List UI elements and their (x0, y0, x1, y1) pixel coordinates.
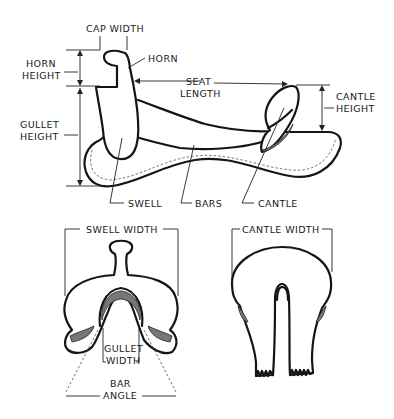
bar-angle-label-2: ANGLE (103, 390, 137, 401)
rear-gullet-inner (277, 287, 288, 300)
horn-label: HORN (148, 53, 178, 64)
horn-height-label-1: HORN (26, 58, 56, 69)
swell-width-label: SWELL WIDTH (86, 224, 158, 235)
gullet-height-label-2: HEIGHT (20, 131, 59, 142)
swell-label: SWELL (128, 198, 162, 209)
gullet-height-label-1: GULLET (20, 119, 59, 130)
cantle-width-label: CANTLE WIDTH (242, 224, 320, 235)
seat-length-label-2: LENGTH (180, 88, 221, 99)
rear-view: CANTLE WIDTH (232, 224, 332, 376)
bar-angle-label-1: BAR (110, 378, 131, 389)
gullet-width-label-1: GULLET (104, 343, 143, 354)
cantle-label: CANTLE (258, 198, 298, 209)
seat-length-label-1: SEAT (186, 76, 211, 87)
cap-width-label: CAP WIDTH (86, 23, 144, 34)
bars-label: BARS (195, 198, 222, 209)
horn-height-label-2: HEIGHT (22, 70, 61, 81)
side-view: CAP WIDTH HORN HORN HEIGHT GULLET HEIGHT… (20, 23, 376, 209)
saddle-tree-diagram: CAP WIDTH HORN HORN HEIGHT GULLET HEIGHT… (0, 0, 394, 419)
cantle-height-label-2: HEIGHT (336, 103, 375, 114)
cantle-height-label-1: CANTLE (336, 91, 376, 102)
seat-line (138, 100, 272, 131)
front-view: SWELL WIDTH GULLET WIDTH BAR ANGLE (64, 224, 178, 401)
rear-cantle-shape (232, 247, 331, 376)
gullet-width-label-2: WIDTH (106, 355, 140, 366)
